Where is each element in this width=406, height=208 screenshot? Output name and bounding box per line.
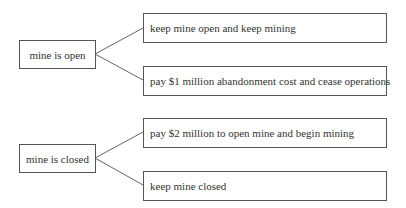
action-label: pay $2 million to open mine and begin mi… xyxy=(150,127,354,139)
action-label: keep mine closed xyxy=(150,180,226,192)
action-box-abandon: pay $1 million abandonment cost and ceas… xyxy=(143,66,387,96)
state-label: mine is open xyxy=(29,49,85,61)
action-label: keep mine open and keep mining xyxy=(150,22,296,34)
action-box-keep-closed: keep mine closed xyxy=(143,171,387,201)
state-label: mine is closed xyxy=(26,153,89,165)
action-box-keep-mining: keep mine open and keep mining xyxy=(143,13,387,43)
state-box-mine-closed: mine is closed xyxy=(19,144,96,173)
action-box-open-mine: pay $2 million to open mine and begin mi… xyxy=(143,118,387,148)
state-box-mine-open: mine is open xyxy=(19,40,96,69)
action-label: pay $1 million abandonment cost and ceas… xyxy=(150,75,390,87)
